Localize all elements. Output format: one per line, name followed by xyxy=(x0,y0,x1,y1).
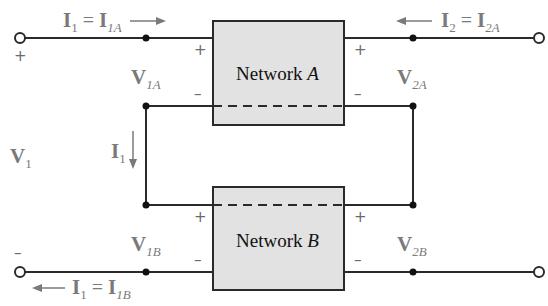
sign-minus-port1: – xyxy=(14,246,22,261)
sign-minus-b-left: – xyxy=(194,253,202,268)
network-b-label: Network B xyxy=(236,231,319,250)
label-v1b: V1B xyxy=(131,234,161,255)
node-dot xyxy=(410,35,417,42)
arrow-left-icon xyxy=(396,17,432,25)
sign-plus-port1: + xyxy=(14,49,27,64)
circuit-diagram xyxy=(0,0,548,306)
network-a-label: Network A xyxy=(236,64,319,83)
node-dot xyxy=(410,103,417,110)
label-i1-mid: I1 xyxy=(111,141,126,162)
label-i1-eq-i1b: I1 = I1B xyxy=(72,277,131,298)
sign-plus-a-left: + xyxy=(194,43,207,58)
arrow-down-icon xyxy=(129,131,137,169)
label-v2b: V2B xyxy=(397,234,427,255)
sign-minus-b-right: – xyxy=(354,253,362,268)
label-v1a: V1A xyxy=(131,67,161,88)
label-v1: V1 xyxy=(10,146,32,167)
arrow-right-icon xyxy=(130,17,166,25)
sign-plus-b-right: + xyxy=(354,210,367,225)
node-dot xyxy=(143,269,150,276)
arrow-left-icon xyxy=(32,284,65,292)
terminal-port2-bottom xyxy=(534,267,544,277)
sign-minus-a-left: – xyxy=(194,87,202,102)
terminal-port1-plus xyxy=(15,33,25,43)
node-dot xyxy=(143,202,150,209)
sign-minus-a-right: – xyxy=(354,87,362,102)
sign-plus-b-left: + xyxy=(194,210,207,225)
node-dot xyxy=(143,35,150,42)
label-v2a: V2A xyxy=(397,67,427,88)
sign-plus-a-right: + xyxy=(354,43,367,58)
label-i2-eq-i2a: I2 = I2A xyxy=(441,10,500,31)
node-dot xyxy=(410,269,417,276)
node-dot xyxy=(143,103,150,110)
terminal-port2-top xyxy=(534,33,544,43)
node-dot xyxy=(410,202,417,209)
terminal-port1-minus xyxy=(15,267,25,277)
label-i1-eq-i1a: I1 = I1A xyxy=(63,10,122,31)
